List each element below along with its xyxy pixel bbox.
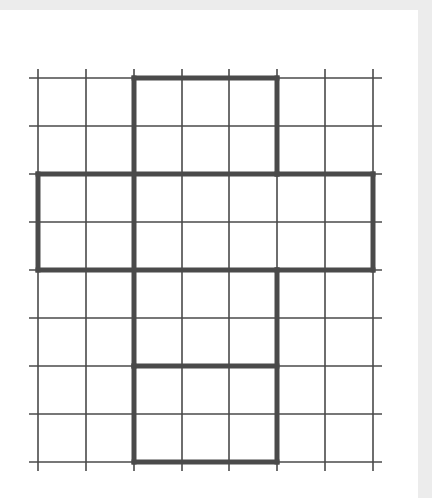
grid-polygon-figure	[0, 0, 432, 498]
bold-outline-group	[38, 78, 373, 462]
page-root	[0, 0, 432, 498]
